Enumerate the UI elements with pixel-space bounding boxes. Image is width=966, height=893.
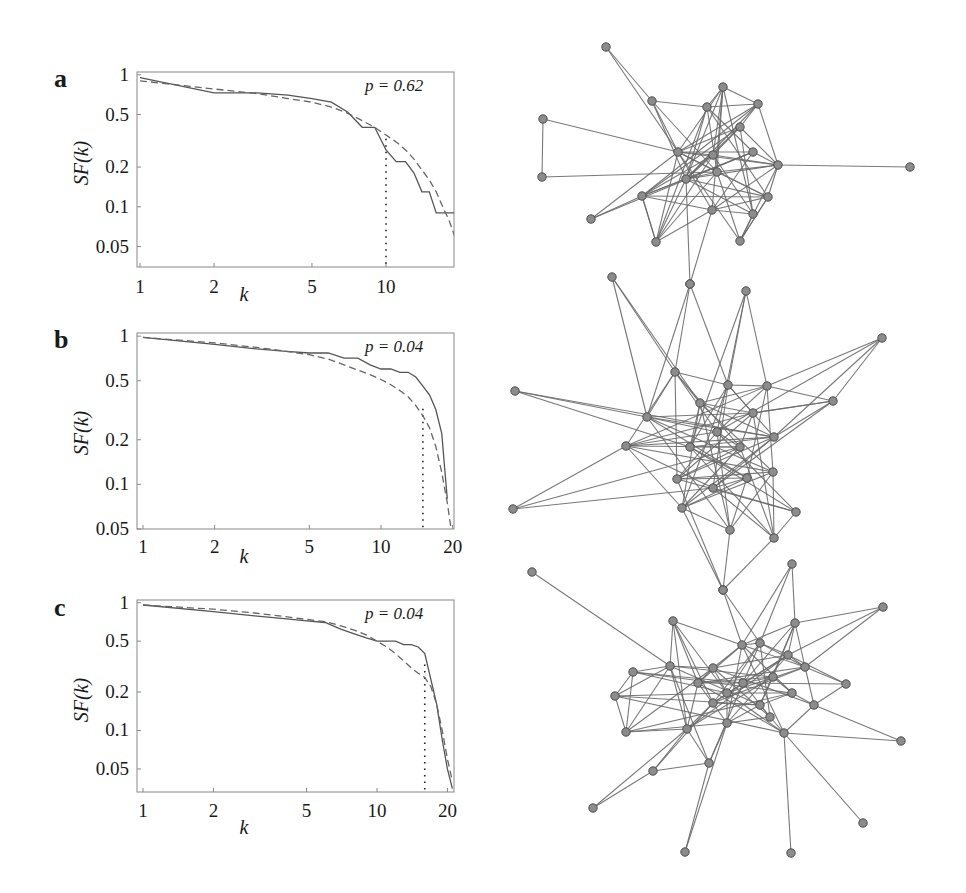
network-node: [788, 689, 796, 697]
network-graph-b: [509, 273, 886, 594]
network-node: [611, 692, 619, 700]
network-node: [906, 163, 914, 171]
network-node: [539, 115, 547, 123]
panel-label-c: c: [54, 593, 66, 622]
network-edges: [513, 277, 882, 590]
network-node: [648, 97, 656, 105]
network-node: [801, 663, 809, 671]
y-tick-label: 0.1: [105, 719, 129, 740]
network-node: [736, 237, 744, 245]
empirical-curve: [140, 78, 465, 213]
network-node: [756, 701, 764, 709]
network-node: [666, 662, 674, 670]
network-node: [649, 767, 657, 775]
x-tick-label: 20: [438, 800, 457, 821]
x-tick-label: 10: [377, 276, 396, 297]
network-node: [652, 238, 660, 246]
network-node: [738, 641, 746, 649]
y-tick-label: 0.05: [96, 518, 129, 539]
network-node: [622, 728, 630, 736]
y-axis-label: SF(k): [70, 410, 93, 455]
y-tick-label: 0.5: [105, 370, 129, 391]
model-curve: [140, 81, 465, 262]
network-node: [538, 173, 546, 181]
y-tick-label: 0.2: [105, 429, 129, 450]
network-node: [736, 123, 744, 131]
x-tick-label: 2: [209, 276, 219, 297]
network-node: [719, 83, 727, 91]
network-node: [774, 161, 782, 169]
network-node: [769, 468, 777, 476]
network-node: [678, 504, 686, 512]
network-edges: [542, 47, 910, 284]
empirical-curve: [143, 605, 452, 789]
x-axis-label: k: [240, 283, 250, 305]
network-node: [792, 508, 800, 516]
network-node: [686, 443, 694, 451]
network-node: [897, 737, 905, 745]
x-tick-label: 5: [305, 536, 315, 557]
network-node: [724, 381, 732, 389]
network-node: [743, 474, 751, 482]
y-tick-label: 1: [120, 592, 130, 613]
network-node: [810, 701, 818, 709]
network-node: [770, 534, 778, 542]
y-tick-label: 0.1: [105, 196, 129, 217]
network-node: [829, 397, 837, 405]
panel-label-b: b: [54, 325, 68, 354]
network-graph-c: [528, 560, 905, 857]
chart-panel-b: b10.50.20.10.051251020kSF(k)p = 0.04: [54, 325, 462, 567]
network-node: [686, 280, 694, 288]
network-node: [842, 680, 850, 688]
x-tick-label: 20: [443, 536, 462, 557]
x-tick-label: 1: [138, 800, 148, 821]
network-nodes: [509, 273, 886, 594]
network-node: [780, 729, 788, 737]
panel-label-a: a: [54, 64, 67, 93]
network-node: [723, 719, 731, 727]
network-node: [749, 210, 757, 218]
plot-frame: [137, 333, 454, 529]
network-node: [608, 273, 616, 281]
network-node: [713, 428, 721, 436]
network-node: [787, 849, 795, 857]
y-tick-label: 0.5: [105, 104, 129, 125]
network-node: [708, 206, 716, 214]
network-node: [749, 148, 757, 156]
x-tick-label: 2: [209, 800, 219, 821]
network-node: [726, 526, 734, 534]
network-node: [509, 505, 517, 513]
x-tick-label: 5: [307, 276, 317, 297]
plot-frame: [137, 72, 454, 267]
network-node: [742, 287, 750, 295]
y-tick-label: 0.05: [96, 236, 129, 257]
network-node: [673, 475, 681, 483]
chart-panel-c: c10.50.20.10.051251020kSF(k)p = 0.04: [54, 592, 457, 838]
network-node: [622, 442, 630, 450]
network-node: [709, 664, 717, 672]
network-node: [764, 193, 772, 201]
plot-frame: [137, 600, 454, 792]
network-node: [770, 433, 778, 441]
network-node: [589, 804, 597, 812]
p-value-annotation: p = 0.04: [364, 604, 424, 623]
network-nodes: [538, 43, 914, 288]
x-axis-label: k: [240, 816, 250, 838]
y-tick-label: 0.5: [105, 630, 129, 651]
network-node: [674, 148, 682, 156]
network-node: [511, 387, 519, 395]
empirical-curve: [143, 337, 447, 498]
x-tick-label: 10: [372, 536, 391, 557]
network-node: [694, 679, 702, 687]
p-value-annotation: p = 0.04: [364, 337, 424, 356]
network-node: [769, 673, 777, 681]
network-graph-a: [538, 43, 914, 288]
network-node: [629, 668, 637, 676]
y-tick-label: 0.2: [105, 681, 129, 702]
network-node: [709, 699, 717, 707]
network-node: [643, 413, 651, 421]
network-node: [683, 725, 691, 733]
y-axis-label: SF(k): [70, 140, 93, 185]
network-node: [681, 848, 689, 856]
network-node: [638, 192, 646, 200]
